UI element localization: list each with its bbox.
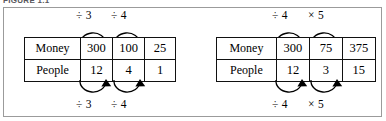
operation-label-top-left-2: ÷ 4 [111, 9, 127, 21]
operation-label-top-right-1: ÷ 4 [272, 9, 288, 21]
operation-label-bottom-right-1: ÷ 4 [272, 98, 288, 110]
cell-money-1: 100 [113, 38, 145, 60]
operation-label-top-right-2: × 5 [308, 9, 324, 21]
cell-money-2: 375 [342, 38, 375, 60]
cell-people-0: 12 [80, 60, 112, 82]
cell-money-1: 75 [310, 38, 342, 60]
figure-caption: FIGURE 1.1 [3, 0, 50, 5]
row-label-money: Money [217, 38, 277, 60]
cell-people-2: 15 [342, 60, 375, 82]
cell-money-2: 25 [145, 38, 176, 60]
table-row: People 12 3 15 [217, 60, 376, 82]
cell-money-0: 300 [276, 38, 309, 60]
table-row: Money 300 100 25 [25, 38, 176, 60]
ratio-diagram-left: ÷ 3 ÷ 4 Money 300 100 25 People 12 4 1 [18, 8, 183, 118]
ratio-table-left: Money 300 100 25 People 12 4 1 [24, 37, 176, 82]
table-row: Money 300 75 375 [217, 38, 376, 60]
arrow-layer-bottom-left [18, 79, 183, 103]
operation-label-bottom-right-2: × 5 [308, 98, 324, 110]
cell-money-0: 300 [80, 38, 112, 60]
figure-frame: ÷ 3 ÷ 4 Money 300 100 25 People 12 4 1 [3, 7, 382, 117]
operation-label-top-left-1: ÷ 3 [76, 9, 92, 21]
ratio-table-right: Money 300 75 375 People 12 3 15 [216, 37, 376, 82]
row-label-people: People [25, 60, 81, 82]
arrow-layer-bottom-right [210, 79, 378, 103]
cell-people-0: 12 [276, 60, 309, 82]
table-row: People 12 4 1 [25, 60, 176, 82]
cell-people-2: 1 [145, 60, 176, 82]
cell-people-1: 3 [310, 60, 342, 82]
row-label-people: People [217, 60, 277, 82]
operation-label-bottom-left-2: ÷ 4 [111, 98, 127, 110]
cell-people-1: 4 [113, 60, 145, 82]
row-label-money: Money [25, 38, 81, 60]
operation-label-bottom-left-1: ÷ 3 [76, 98, 92, 110]
ratio-diagram-right: ÷ 4 × 5 Money 300 75 375 People 12 3 15 [210, 8, 378, 118]
